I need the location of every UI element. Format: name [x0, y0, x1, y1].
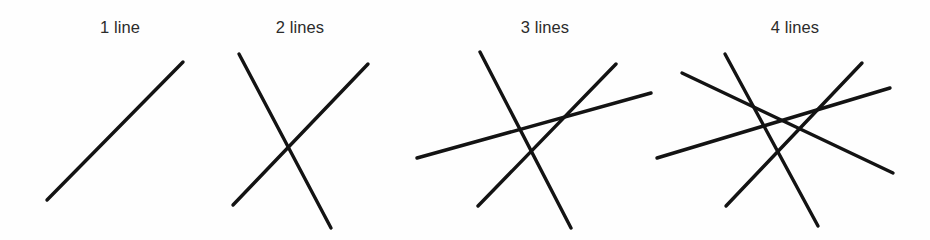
panel-4-canvas: [660, 0, 930, 240]
panel-4-lines: 4 lines: [660, 0, 930, 240]
line-1: [239, 54, 331, 228]
panel-2-lines: 2 lines: [210, 0, 410, 240]
line-1: [725, 54, 818, 226]
panel-2-canvas: [210, 0, 410, 240]
line-4: [657, 88, 890, 158]
panel-3-canvas: [410, 0, 660, 240]
line-1: [480, 52, 571, 228]
line-1: [47, 62, 183, 200]
line-2: [682, 73, 893, 173]
figure-root: 1 line 2 lines 3 lines 4 lines: [0, 0, 930, 240]
line-2: [233, 64, 368, 205]
panel-1-line: 1 line: [0, 0, 210, 240]
panel-1-canvas: [0, 0, 210, 240]
panel-3-lines: 3 lines: [410, 0, 660, 240]
